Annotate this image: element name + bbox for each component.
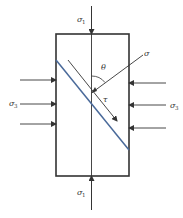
label-shear-stress: τ <box>103 95 108 104</box>
svg-text:1: 1 <box>82 192 86 198</box>
svg-text:3: 3 <box>14 103 18 109</box>
svg-text:3: 3 <box>175 105 179 111</box>
stress-diagram: σ 1 σ 1 σ 3 σ 3 σ τ θ <box>0 0 183 218</box>
svg-text:1: 1 <box>82 19 86 25</box>
label-sigma1-top: σ 1 <box>77 15 86 25</box>
label-normal-stress: σ <box>144 49 150 58</box>
label-sigma3-right: σ 3 <box>170 101 179 111</box>
theta-arc <box>92 76 106 83</box>
label-theta: θ <box>101 63 106 72</box>
label-sigma1-bottom: σ 1 <box>77 188 86 198</box>
normal-stress-arrow <box>92 55 144 93</box>
label-sigma3-left: σ 3 <box>9 99 18 109</box>
